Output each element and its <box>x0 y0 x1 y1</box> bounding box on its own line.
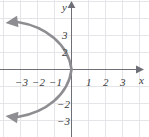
x-tick-label-neg3: −3 <box>15 77 28 88</box>
parabola-graph-figure: −3 −2 −1 1 2 3 3 2 −2 −3 x y <box>0 0 149 137</box>
y-tick-label-pos2: 2 <box>62 47 68 58</box>
coordinate-plane-svg <box>0 0 149 137</box>
x-tick-label-pos2: 2 <box>103 77 109 88</box>
parabola-lower-arrowhead <box>6 112 19 123</box>
x-tick-label-neg2: −2 <box>32 77 45 88</box>
parabola-upper-arrowhead <box>6 16 19 27</box>
y-axis-name: y <box>62 2 67 13</box>
x-axis-name: x <box>139 75 144 86</box>
x-tick-label-pos1: 1 <box>86 77 92 88</box>
x-tick-label-pos3: 3 <box>120 77 126 88</box>
y-tick-label-neg3: −3 <box>57 116 70 127</box>
y-tick-label-neg2: −2 <box>57 99 70 110</box>
x-tick-label-neg1: −1 <box>49 77 62 88</box>
y-tick-label-pos3: 3 <box>62 30 68 41</box>
grid-lines-horizontal <box>0 2 149 121</box>
y-axis-arrowhead <box>68 1 76 8</box>
